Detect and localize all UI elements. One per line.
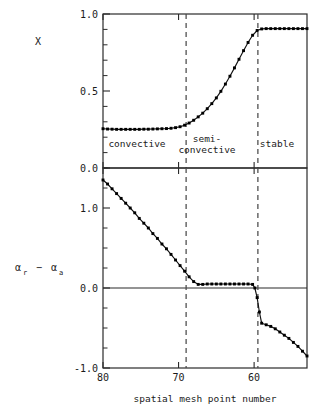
data-point-marker bbox=[106, 128, 109, 131]
data-point-marker bbox=[219, 283, 222, 286]
lower-y-axis-label-minus: − bbox=[36, 262, 42, 273]
data-point-marker bbox=[210, 102, 213, 105]
data-point-marker bbox=[179, 125, 182, 128]
y-tick-label: 0.0 bbox=[80, 283, 98, 294]
data-point-marker bbox=[142, 222, 145, 225]
region-label-stable: stable bbox=[260, 138, 295, 149]
data-point-marker bbox=[124, 202, 127, 205]
data-point-marker bbox=[233, 66, 236, 69]
data-point-marker bbox=[151, 128, 154, 131]
region-label-semi-convective-line1: semi- bbox=[193, 133, 222, 144]
data-point-marker bbox=[296, 27, 299, 30]
data-point-marker bbox=[160, 243, 163, 246]
y-tick-label: 0.5 bbox=[80, 86, 98, 97]
data-point-marker bbox=[224, 83, 227, 86]
y-tick-label: 1.0 bbox=[80, 203, 98, 214]
data-point-marker bbox=[219, 90, 222, 93]
data-point-marker bbox=[247, 283, 250, 286]
x-tick-label: 60 bbox=[248, 372, 260, 383]
y-tick-label: 0.0 bbox=[80, 163, 98, 174]
data-point-marker bbox=[260, 322, 263, 325]
data-point-marker bbox=[238, 283, 241, 286]
data-point-marker bbox=[197, 115, 200, 118]
data-point-marker bbox=[224, 283, 227, 286]
data-point-marker bbox=[170, 127, 173, 130]
data-point-marker bbox=[260, 27, 263, 30]
data-point-marker bbox=[274, 327, 277, 330]
data-point-marker bbox=[151, 232, 154, 235]
data-point-marker bbox=[269, 325, 272, 328]
data-point-marker bbox=[283, 27, 286, 30]
data-point-marker bbox=[179, 264, 182, 267]
data-point-marker bbox=[242, 283, 245, 286]
data-point-marker bbox=[188, 275, 191, 278]
data-point-marker bbox=[174, 126, 177, 129]
data-point-marker bbox=[120, 128, 123, 131]
data-point-marker bbox=[253, 287, 256, 290]
data-point-marker bbox=[301, 350, 304, 353]
data-point-marker bbox=[142, 128, 145, 131]
data-point-marker bbox=[188, 122, 191, 125]
data-point-marker bbox=[201, 112, 204, 115]
data-point-marker bbox=[183, 124, 186, 127]
data-point-marker bbox=[111, 128, 114, 131]
region-label-convective: convective bbox=[108, 138, 165, 149]
data-point-marker bbox=[165, 247, 168, 250]
data-point-marker bbox=[160, 127, 163, 130]
data-point-marker bbox=[233, 283, 236, 286]
figure-container: 0.00.51.0 X convective semi- convective … bbox=[0, 0, 316, 410]
data-point-marker bbox=[287, 337, 290, 340]
data-point-marker bbox=[251, 34, 254, 37]
data-point-marker bbox=[170, 253, 173, 256]
data-point-marker bbox=[215, 96, 218, 99]
upper-y-axis-label: X bbox=[35, 36, 41, 47]
data-point-marker bbox=[147, 128, 150, 131]
region-label-semi-convective-line2: convective bbox=[178, 144, 235, 155]
data-point-marker bbox=[120, 197, 123, 200]
data-point-marker bbox=[102, 179, 105, 182]
data-point-marker bbox=[265, 323, 268, 326]
data-point-marker bbox=[192, 280, 195, 283]
data-point-marker bbox=[197, 283, 200, 286]
data-point-marker bbox=[192, 119, 195, 122]
data-point-marker bbox=[274, 27, 277, 30]
lower-y-axis-label-alpha-a-subscript: a bbox=[59, 269, 63, 277]
data-point-marker bbox=[306, 27, 309, 30]
data-point-marker bbox=[111, 187, 114, 190]
data-point-marker bbox=[165, 127, 168, 130]
data-point-marker bbox=[106, 183, 109, 186]
data-point-marker bbox=[256, 296, 259, 299]
data-point-marker bbox=[206, 283, 209, 286]
data-point-marker bbox=[238, 58, 241, 61]
data-point-marker bbox=[256, 29, 259, 32]
data-point-marker bbox=[133, 211, 136, 214]
data-point-marker bbox=[129, 207, 132, 210]
data-point-marker bbox=[102, 127, 105, 130]
data-point-marker bbox=[269, 27, 272, 30]
data-point-marker bbox=[228, 75, 231, 78]
data-point-marker bbox=[301, 27, 304, 30]
lower-y-axis-label-alpha-r-subscript: r bbox=[23, 269, 27, 277]
figure-background bbox=[0, 0, 316, 410]
data-point-marker bbox=[258, 311, 261, 314]
x-tick-label: 80 bbox=[97, 372, 109, 383]
data-point-marker bbox=[206, 107, 209, 110]
data-point-marker bbox=[283, 334, 286, 337]
data-point-marker bbox=[292, 341, 295, 344]
data-point-marker bbox=[247, 41, 250, 44]
data-point-marker bbox=[242, 49, 245, 52]
data-point-marker bbox=[215, 283, 218, 286]
chart-svg: 0.00.51.0 X convective semi- convective … bbox=[0, 0, 316, 410]
data-point-marker bbox=[287, 27, 290, 30]
data-point-marker bbox=[115, 192, 118, 195]
data-point-marker bbox=[292, 27, 295, 30]
data-point-marker bbox=[138, 128, 141, 131]
data-point-marker bbox=[147, 227, 150, 230]
lower-y-axis-label-alpha-r-symbol: α bbox=[15, 262, 21, 273]
data-point-marker bbox=[115, 128, 118, 131]
data-point-marker bbox=[278, 27, 281, 30]
data-point-marker bbox=[129, 128, 132, 131]
data-point-marker bbox=[201, 283, 204, 286]
data-point-marker bbox=[138, 217, 141, 220]
data-point-marker bbox=[210, 283, 213, 286]
